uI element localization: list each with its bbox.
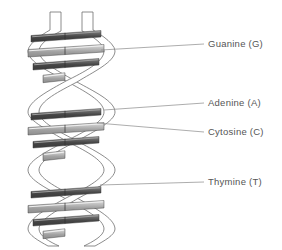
label-guanine: Guanine (G)	[208, 39, 263, 49]
leader-line-guanine	[101, 44, 204, 50]
leader-line-cytosine	[97, 123, 204, 132]
label-cytosine: Cytosine (C)	[208, 127, 264, 137]
label-adenine: Adenine (A)	[208, 98, 261, 108]
leader-line-adenine	[104, 103, 204, 110]
leader-line-thymine	[100, 182, 204, 185]
base-pair-rung	[31, 109, 101, 121]
label-thymine: Thymine (T)	[208, 177, 262, 187]
dna-diagram-root: Guanine (G) Adenine (A) Cytosine (C) Thy…	[0, 0, 282, 250]
base-pair-rung	[43, 73, 65, 83]
base-pair-rung	[43, 229, 65, 239]
base-pair-rung	[31, 31, 101, 43]
